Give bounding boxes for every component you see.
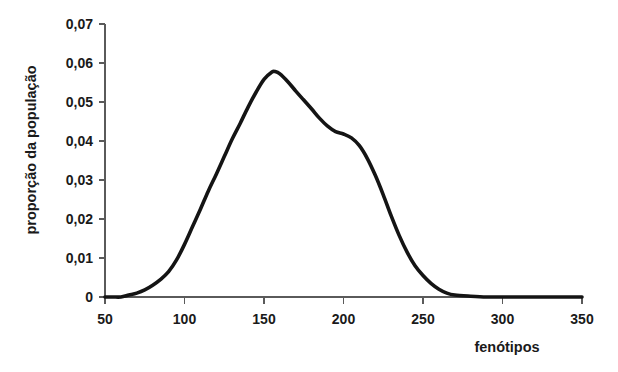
y-axis: 00,010,020,030,040,050,060,07: [66, 16, 105, 305]
y-axis-tick-label: 0,06: [66, 55, 93, 71]
x-axis-tick-label: 300: [491, 311, 515, 327]
y-axis-ticks: [99, 24, 105, 297]
x-axis-tick-label: 150: [252, 311, 276, 327]
y-axis-tick-label: 0,04: [66, 133, 93, 149]
x-axis: 50100150200250300350: [97, 297, 594, 327]
chart-container: 00,010,020,030,040,050,060,07 5010015020…: [0, 0, 618, 372]
x-axis-tick-labels: 50100150200250300350: [97, 311, 594, 327]
x-axis-tick-label: 350: [570, 311, 594, 327]
y-axis-tick-label: 0,03: [66, 172, 93, 188]
y-axis-tick-label: 0,07: [66, 16, 93, 32]
x-axis-title: fenótipos: [474, 339, 539, 355]
y-axis-tick-labels: 00,010,020,030,040,050,060,07: [66, 16, 93, 305]
x-axis-tick-label: 250: [411, 311, 435, 327]
y-axis-title: proporção da população: [23, 65, 39, 234]
y-axis-tick-label: 0: [85, 289, 93, 305]
y-axis-tick-label: 0,05: [66, 94, 93, 110]
phenotype-distribution-chart: 00,010,020,030,040,050,060,07 5010015020…: [0, 0, 618, 372]
y-axis-tick-label: 0,01: [66, 250, 93, 266]
x-axis-tick-label: 100: [173, 311, 197, 327]
x-axis-tick-label: 200: [332, 311, 356, 327]
x-axis-tick-label: 50: [97, 311, 113, 327]
distribution-curve: [105, 71, 582, 297]
y-axis-tick-label: 0,02: [66, 211, 93, 227]
